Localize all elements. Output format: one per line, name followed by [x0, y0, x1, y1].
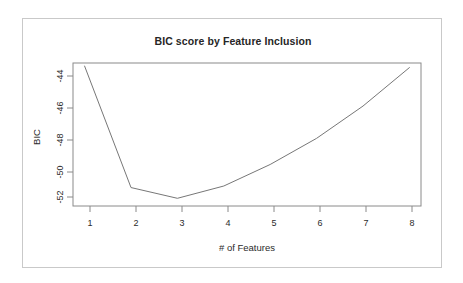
y-tick-label: -48: [55, 133, 65, 146]
x-tick-label: 3: [179, 218, 184, 228]
y-tick-label: -44: [55, 69, 65, 82]
y-tick-label: -46: [55, 101, 65, 114]
x-tick-label: 1: [87, 218, 92, 228]
y-tick-label: -52: [55, 190, 65, 203]
y-tick-label: -50: [55, 165, 65, 178]
y-axis-ticks: [67, 76, 73, 197]
x-tick-label: 4: [225, 218, 230, 228]
x-axis-tick-labels: 1 2 3 4 5 6 7 8: [87, 218, 414, 228]
x-tick-label: 5: [271, 218, 276, 228]
x-tick-label: 6: [317, 218, 322, 228]
x-axis-ticks: [90, 206, 412, 212]
x-tick-label: 7: [363, 218, 368, 228]
x-tick-label: 2: [133, 218, 138, 228]
y-axis-title: BIC: [31, 129, 42, 145]
figure-card: BIC score by Feature Inclusion -44 -46 -…: [22, 18, 442, 268]
x-axis-title: # of Features: [219, 242, 275, 253]
plot-frame: [73, 63, 421, 206]
y-axis-tick-labels: -44 -46 -48 -50 -52: [55, 69, 65, 203]
x-tick-label: 8: [409, 218, 414, 228]
data-line-bic: [85, 66, 410, 198]
bic-line-chart: -44 -46 -48 -50 -52 BIC 1 2 3 4 5 6 7: [23, 19, 443, 269]
